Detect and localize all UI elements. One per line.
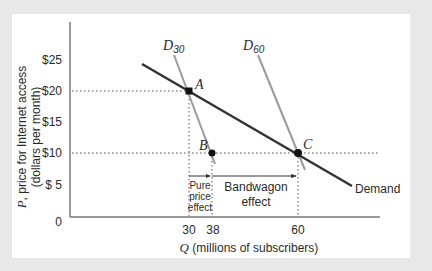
y-axis-var: P [14,200,29,209]
point-a-label: A [194,77,204,92]
y-tick-25: $25 [42,53,62,67]
point-c-label: C [303,137,313,152]
pure-price-arrowhead [206,174,211,178]
svg-text:P, price for Internet access: P, price for Internet access [14,66,29,210]
x-tick-30: 30 [182,223,196,237]
bandwagon-chart: $25 $20 $15 $10 $ 5 0 P, price for Inter… [0,0,432,271]
pure-label-3: effect [188,202,212,213]
pure-label-1: Pure [189,180,211,191]
point-b-label: B [199,138,208,153]
y-axis-label: P, price for Internet access (dollars pe… [14,66,43,210]
y-axis-label-line2: (dollars per month) [29,87,43,188]
bandwagon-label-2: effect [241,195,271,209]
x-tick-38: 38 [206,223,220,237]
bandwagon-arrowhead [291,174,297,178]
d60-label: D60 [242,38,265,55]
d30-label: D30 [162,38,185,55]
y-tick-20: $20 [42,84,62,98]
y-tick-10: $10 [42,146,62,160]
point-c-marker [294,149,302,157]
y-tick-0: 0 [55,215,62,229]
y-tick-5: $ 5 [45,178,62,192]
bandwagon-label-1: Bandwagon [224,180,287,194]
point-b-marker [209,150,216,157]
demand-label: Demand [355,182,400,196]
x-axis-label: Q (millions of subscribers) [180,240,319,255]
pure-label-2: price [189,191,211,202]
y-axis-label-line1: , price for Internet access [15,66,29,201]
y-tick-15: $15 [42,115,62,129]
x-tick-60: 60 [291,223,305,237]
d30-curve [174,55,215,164]
point-a-marker [186,88,193,95]
demand-curve [142,64,352,186]
